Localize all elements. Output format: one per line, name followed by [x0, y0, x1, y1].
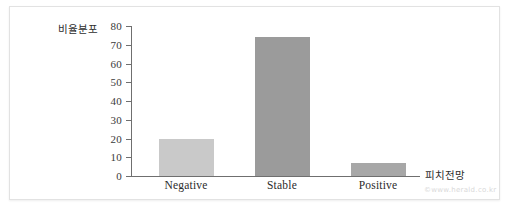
bar: [255, 37, 310, 176]
x-axis-title: 피치전망: [425, 167, 465, 182]
x-axis-line: [131, 176, 420, 177]
bar: [159, 139, 214, 177]
plot-area: 비율분포 01020304050607080 NegativeStablePos…: [0, 0, 510, 210]
chart-figure: 비율분포 01020304050607080 NegativeStablePos…: [0, 0, 510, 210]
bars-layer: [0, 26, 510, 176]
x-tick-label: Stable: [237, 179, 327, 191]
y-tick-mark: [126, 176, 132, 177]
x-tick-label: Positive: [333, 179, 423, 191]
x-tick-label: Negative: [141, 179, 231, 191]
bar: [351, 163, 406, 176]
watermark: ©www.herald.co.kr: [424, 186, 497, 194]
